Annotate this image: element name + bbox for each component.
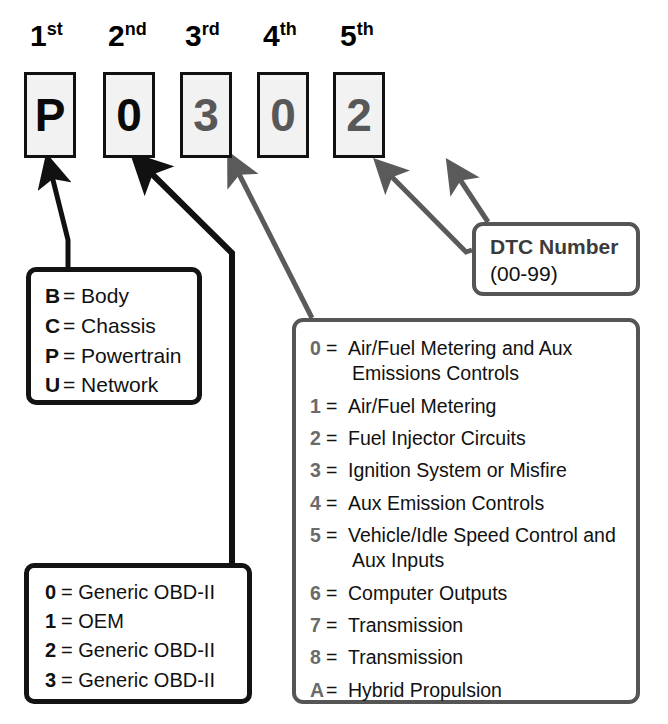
list-item: 2=Fuel Injector Circuits xyxy=(310,426,636,451)
list-item: C= Chassis xyxy=(45,311,197,341)
list-item: 0=Air/Fuel Metering and Aux Emissions Co… xyxy=(310,336,636,387)
arrow-fourth-char xyxy=(390,175,472,252)
ordinal-label-1: 1st xyxy=(30,20,63,51)
arrow-first-char xyxy=(52,176,68,267)
legend-second-character: 0= Generic OBD-II 1= OEM 2= Generic OBD-… xyxy=(24,563,252,704)
legend-second-list: 0= Generic OBD-II 1= OEM 2= Generic OBD-… xyxy=(45,578,247,695)
list-item: 1= OEM xyxy=(45,607,247,636)
legend-third-list: 0=Air/Fuel Metering and Aux Emissions Co… xyxy=(310,336,636,703)
list-item: P= Powertrain xyxy=(45,341,197,371)
code-char-box-2: 0 xyxy=(103,72,155,158)
code-char-box-5: 2 xyxy=(333,72,385,158)
code-char-box-3: 3 xyxy=(180,72,232,158)
dtc-number-callout: DTC Number (00-99) xyxy=(472,222,640,296)
list-item: 3= Generic OBD-II xyxy=(45,666,247,695)
code-char-box-4: 0 xyxy=(257,72,309,158)
list-item: 0= Generic OBD-II xyxy=(45,578,247,607)
code-char-box-1: P xyxy=(24,72,76,158)
ordinal-label-4: 4th xyxy=(263,20,297,51)
list-item: 8=Transmission xyxy=(310,645,636,670)
dtc-structure-diagram: 1st 2nd 3rd 4th 5th P 0 3 0 2 B= Body C=… xyxy=(0,0,668,724)
legend-third-character: 0=Air/Fuel Metering and Aux Emissions Co… xyxy=(292,318,640,704)
list-item: 2= Generic OBD-II xyxy=(45,636,247,665)
list-item: B= Body xyxy=(45,281,197,311)
dtc-number-range: (00-99) xyxy=(490,260,636,287)
list-item: 6=Computer Outputs xyxy=(310,581,636,606)
list-item: A=Hybrid Propulsion xyxy=(310,678,636,703)
ordinal-label-3: 3rd xyxy=(185,20,220,51)
list-item: 3=Ignition System or Misfire xyxy=(310,458,636,483)
legend-first-list: B= Body C= Chassis P= Powertrain U= Netw… xyxy=(45,281,197,400)
ordinal-label-5: 5th xyxy=(340,20,374,51)
dtc-number-title: DTC Number xyxy=(490,234,636,260)
arrow-fifth-char xyxy=(459,178,488,222)
legend-first-character: B= Body C= Chassis P= Powertrain U= Netw… xyxy=(26,267,202,405)
list-item: 7=Transmission xyxy=(310,613,636,638)
list-item: 4=Aux Emission Controls xyxy=(310,491,636,516)
list-item: 5=Vehicle/Idle Speed Control and Aux Inp… xyxy=(310,523,636,574)
list-item: U= Network xyxy=(45,370,197,400)
list-item: 1=Air/Fuel Metering xyxy=(310,394,636,419)
ordinal-label-2: 2nd xyxy=(108,20,147,51)
arrow-third-char xyxy=(238,172,312,318)
